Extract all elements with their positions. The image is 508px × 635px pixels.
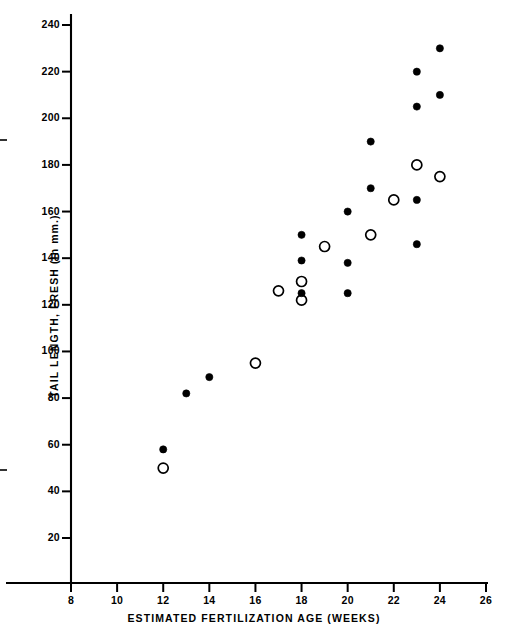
- y-axis-tick-label: 20: [10, 531, 60, 543]
- x-axis-tick-label: 14: [184, 594, 234, 606]
- data-point-filled: [413, 241, 420, 248]
- data-point-filled: [436, 91, 443, 98]
- data-point-filled: [298, 257, 305, 264]
- data-points-group: [158, 45, 445, 473]
- x-axis-tick-label: 18: [277, 594, 327, 606]
- x-axis-tick-label: 20: [323, 594, 373, 606]
- data-point-open: [435, 172, 445, 182]
- x-axis-tick-label: 26: [461, 594, 508, 606]
- data-point-open: [250, 358, 260, 368]
- y-axis-tick-label: 220: [10, 65, 60, 77]
- y-axis-tick-label: 240: [10, 18, 60, 30]
- data-point-filled: [367, 185, 374, 192]
- y-axis-title: TAIL LENGTH, FRESH (In mm.): [48, 156, 60, 456]
- y-axis-tick-label: 200: [10, 111, 60, 123]
- data-point-open: [366, 230, 376, 240]
- data-point-filled: [206, 374, 213, 381]
- data-point-open: [158, 463, 168, 473]
- x-axis-tick-label: 8: [46, 594, 96, 606]
- axes-group: [0, 14, 488, 592]
- x-axis-tick-label: 22: [369, 594, 419, 606]
- data-point-open: [412, 160, 422, 170]
- data-point-filled: [298, 231, 305, 238]
- data-point-filled: [413, 196, 420, 203]
- data-point-open: [320, 242, 330, 252]
- figure-container: 20406080100120140160180200220240 8101214…: [0, 0, 508, 635]
- data-point-filled: [344, 208, 351, 215]
- data-point-filled: [367, 138, 374, 145]
- data-point-filled: [413, 103, 420, 110]
- scatter-plot: [0, 0, 508, 635]
- data-point-open: [274, 286, 284, 296]
- y-axis-tick-label: 40: [10, 484, 60, 496]
- data-point-filled: [344, 290, 351, 297]
- data-point-filled: [160, 446, 167, 453]
- data-point-filled: [413, 68, 420, 75]
- data-point-open: [297, 277, 307, 287]
- data-point-filled: [344, 259, 351, 266]
- x-axis-tick-label: 12: [138, 594, 188, 606]
- data-point-filled: [436, 45, 443, 52]
- figure-caption: [0, 629, 508, 635]
- x-axis-tick-label: 10: [92, 594, 142, 606]
- data-point-open: [389, 195, 399, 205]
- x-axis-tick-label: 16: [230, 594, 280, 606]
- x-axis-title: ESTIMATED FERTILIZATION AGE (WEEKS): [0, 612, 508, 624]
- x-axis-tick-label: 24: [415, 594, 465, 606]
- data-point-filled: [183, 390, 190, 397]
